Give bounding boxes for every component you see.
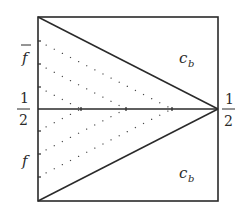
bottom-diagonal — [38, 109, 218, 201]
label-f-bar: f — [21, 45, 31, 67]
svg-text:c: c — [179, 49, 188, 67]
svg-text:b: b — [188, 173, 194, 184]
label-left-half: 1 2 — [17, 90, 30, 128]
svg-text:1: 1 — [20, 90, 29, 106]
region-label-top: c b — [179, 49, 194, 69]
svg-text:1: 1 — [225, 91, 234, 107]
svg-text:f: f — [21, 49, 30, 67]
svg-text:f: f — [21, 152, 30, 170]
diagram-canvas: f 1 2 f 1 2 c b c b — [0, 0, 250, 215]
svg-text:2: 2 — [19, 112, 28, 128]
svg-text:c: c — [179, 164, 188, 182]
label-right-half: 1 2 — [222, 91, 235, 129]
region-label-bottom: c b — [179, 164, 194, 184]
label-f: f — [21, 152, 30, 170]
svg-text:b: b — [188, 58, 194, 69]
svg-text:2: 2 — [224, 113, 233, 129]
